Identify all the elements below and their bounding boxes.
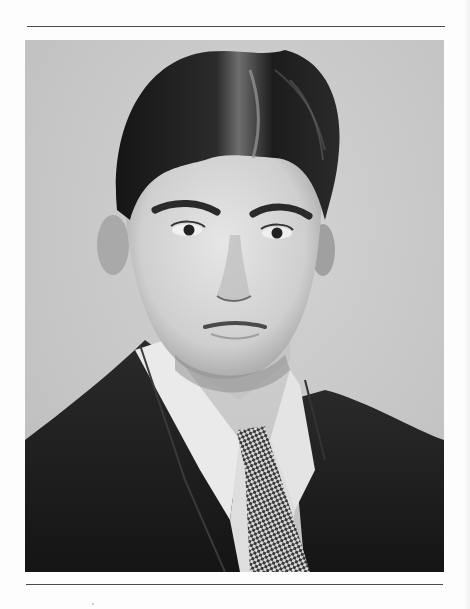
portrait-photo bbox=[25, 40, 444, 572]
top-rule-divider bbox=[27, 26, 445, 27]
bottom-rule-divider bbox=[26, 584, 443, 585]
scan-speck bbox=[92, 603, 94, 605]
page-edge-shadow bbox=[464, 0, 470, 609]
